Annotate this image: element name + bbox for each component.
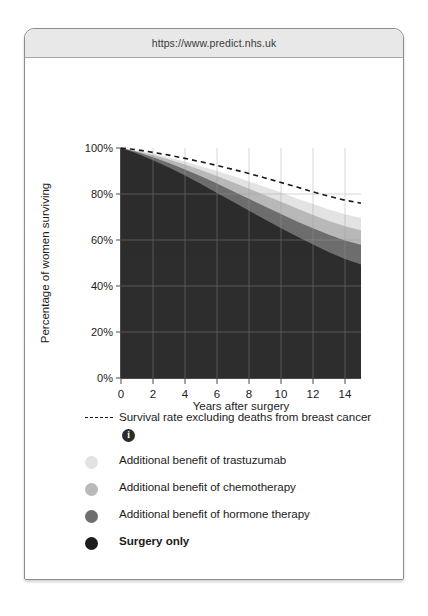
x-tick-label: 14 — [339, 388, 352, 398]
y-tick-label: 80% — [91, 188, 113, 200]
legend-swatch-col — [85, 410, 119, 418]
y-tick-label: 100% — [85, 142, 113, 154]
legend-swatch-col — [85, 534, 119, 550]
circle-swatch-icon — [85, 456, 98, 469]
legend-label-wrap: Survival rate excluding deaths from brea… — [119, 410, 385, 442]
legend-item-label: Additional benefit of trastuzumab — [119, 453, 286, 468]
url-text: https://www.predict.nhs.uk — [152, 37, 277, 49]
x-tick-label: 10 — [275, 388, 288, 398]
y-tick-marks — [116, 148, 121, 378]
page-body: Percentage of women surviving 100% 80% 6… — [25, 58, 403, 580]
x-tick-label: 4 — [182, 388, 189, 398]
legend-item-label: Surgery only — [119, 534, 189, 549]
x-tick-label: 6 — [214, 388, 220, 398]
circle-swatch-icon — [85, 510, 98, 523]
legend-item-surgery-only[interactable]: Surgery only — [85, 534, 385, 550]
legend-swatch-col — [85, 480, 119, 496]
y-axis-ticks: 100% 80% 60% 40% 20% 0% — [85, 142, 113, 384]
dashed-line-swatch-icon — [85, 417, 113, 418]
survival-chart: Percentage of women surviving 100% 80% 6… — [25, 58, 404, 398]
y-tick-label: 20% — [91, 326, 113, 338]
chart-legend: Survival rate excluding deaths from brea… — [85, 410, 385, 550]
circle-swatch-icon — [85, 537, 98, 550]
legend-item-trastuzumab[interactable]: Additional benefit of trastuzumab — [85, 453, 385, 469]
x-tick-label: 2 — [150, 388, 156, 398]
y-tick-label: 40% — [91, 280, 113, 292]
y-tick-label: 0% — [97, 372, 113, 384]
legend-swatch-col — [85, 453, 119, 469]
info-icon[interactable]: i — [122, 429, 135, 442]
chart-svg: Percentage of women surviving 100% 80% 6… — [25, 58, 404, 398]
x-tick-label: 0 — [118, 388, 124, 398]
y-axis-title: Percentage of women surviving — [39, 183, 51, 343]
x-tick-label: 12 — [307, 388, 320, 398]
browser-window: https://www.predict.nhs.uk Percentage of… — [24, 28, 404, 580]
legend-item-survival-excluding[interactable]: Survival rate excluding deaths from brea… — [85, 410, 385, 442]
legend-item-label: Survival rate excluding deaths from brea… — [119, 410, 371, 423]
legend-item-chemotherapy[interactable]: Additional benefit of chemotherapy — [85, 480, 385, 496]
circle-swatch-icon — [85, 483, 98, 496]
legend-item-label: Additional benefit of chemotherapy — [119, 480, 296, 495]
legend-item-hormone-therapy[interactable]: Additional benefit of hormone therapy — [85, 507, 385, 523]
url-bar[interactable]: https://www.predict.nhs.uk — [25, 29, 403, 58]
x-tick-label: 8 — [246, 388, 252, 398]
x-axis — [121, 378, 361, 384]
y-tick-label: 60% — [91, 234, 113, 246]
legend-swatch-col — [85, 507, 119, 523]
legend-item-label: Additional benefit of hormone therapy — [119, 507, 310, 522]
